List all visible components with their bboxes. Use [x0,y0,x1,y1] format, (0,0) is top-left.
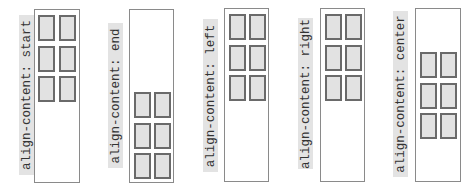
grid-item [229,45,246,71]
grid-item [229,14,246,40]
panel-label: align-content: center [393,11,408,177]
grid-container [224,8,269,182]
panel-label: align-content: right [298,18,313,169]
grid-item [440,83,457,109]
grid-item [345,45,362,71]
panel-label: align-content: end [108,23,123,168]
grid-item [345,14,362,40]
grid-item [420,113,437,139]
grid-item [325,14,342,40]
grid-item [59,46,76,72]
grid-item [325,45,342,71]
grid-item [249,45,266,71]
grid-item [249,75,266,101]
grid-container [415,8,461,182]
grid-item [154,153,171,179]
grid-item [440,52,457,78]
grid-item [38,46,55,72]
grid-item [154,123,171,149]
grid-item [59,76,76,102]
grid-item [420,52,437,78]
panel-label: align-content: left [203,19,218,172]
grid-item [440,113,457,139]
grid-item [38,76,55,102]
grid-item [325,75,342,101]
grid-item [420,83,437,109]
grid-item [345,75,362,101]
grid-item [134,153,151,179]
grid-item [249,14,266,40]
grid-item [229,75,246,101]
grid-item [59,15,76,41]
grid-container [320,8,365,182]
grid-container [34,9,80,183]
grid-item [154,92,171,118]
grid-item [38,15,55,41]
panel-label: align-content: start [19,15,34,175]
grid-container [129,9,174,183]
grid-item [134,123,151,149]
grid-item [134,92,151,118]
